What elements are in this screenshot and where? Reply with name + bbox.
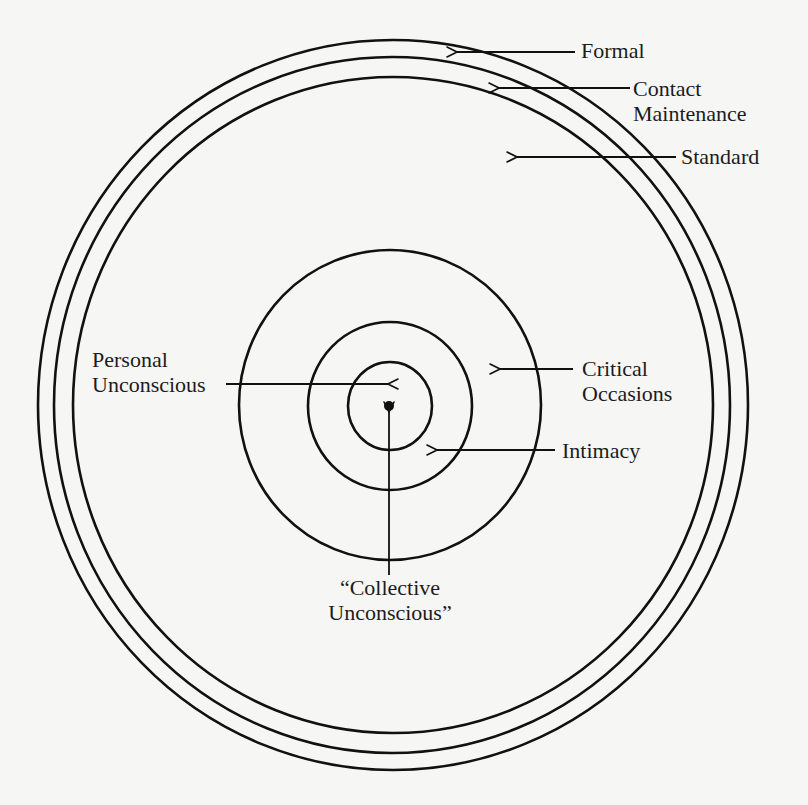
- label-intimacy: Intimacy: [562, 438, 640, 463]
- label-critical-occasions: Critical Occasions: [582, 356, 672, 406]
- label-contact-maintenance: Contact Maintenance: [633, 76, 747, 126]
- label-collective-unconscious: “Collective Unconscious”: [300, 575, 480, 625]
- center-dot-icon: [384, 401, 394, 411]
- label-standard: Standard: [681, 144, 759, 169]
- label-personal-unconscious: Personal Unconscious: [92, 347, 206, 397]
- label-formal: Formal: [581, 38, 645, 63]
